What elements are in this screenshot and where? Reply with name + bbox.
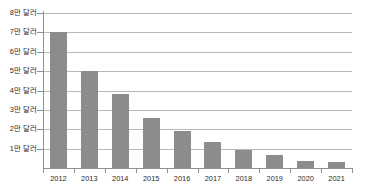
- x-axis-tick: [167, 168, 168, 173]
- x-axis-tick: [198, 168, 199, 173]
- bar: [112, 94, 129, 168]
- bar-chart: 8만 달러7만 달러6만 달러5만 달러4만 달러3만 달러2만 달러1만 달러…: [0, 0, 368, 189]
- x-axis-tick-label: 2012: [41, 174, 75, 183]
- x-axis-tick: [136, 168, 137, 173]
- y-axis-tick-label: 2만 달러: [1, 125, 37, 133]
- x-axis-tick-label: 2015: [134, 174, 168, 183]
- x-axis-tick-origin: [43, 168, 44, 173]
- x-axis-tick-label: 2014: [103, 174, 137, 183]
- y-axis-tick-label: 8만 달러: [1, 9, 37, 17]
- x-axis-tick: [105, 168, 106, 173]
- x-axis-tick-label: 2019: [258, 174, 292, 183]
- y-axis-tick-label: 4만 달러: [1, 87, 37, 95]
- bar: [204, 142, 221, 168]
- x-axis-tick: [352, 168, 353, 173]
- bar: [266, 155, 283, 168]
- x-axis-tick: [74, 168, 75, 173]
- y-axis-labels: 8만 달러7만 달러6만 달러5만 달러4만 달러3만 달러2만 달러1만 달러: [0, 0, 37, 189]
- x-axis-tick-label: 2017: [196, 174, 230, 183]
- y-axis-tick-label: 7만 달러: [1, 28, 37, 36]
- bar: [235, 150, 252, 168]
- x-axis-tick: [228, 168, 229, 173]
- bar: [143, 118, 160, 168]
- bar: [328, 162, 345, 168]
- y-axis-tick-label: 5만 달러: [1, 67, 37, 75]
- y-axis-tick-label: 6만 달러: [1, 48, 37, 56]
- x-axis-tick: [290, 168, 291, 173]
- x-axis-tick: [259, 168, 260, 173]
- x-axis-tick-label: 2016: [165, 174, 199, 183]
- bar: [50, 32, 67, 168]
- x-axis-tick-label: 2013: [72, 174, 106, 183]
- bar: [297, 161, 314, 168]
- x-axis-tick-label: 2021: [320, 174, 354, 183]
- y-axis-tick-label: 3만 달러: [1, 106, 37, 114]
- bar-series: [43, 13, 352, 168]
- x-axis-tick-label: 2020: [289, 174, 323, 183]
- x-axis-tick-label: 2018: [227, 174, 261, 183]
- bar: [174, 131, 191, 168]
- y-axis-tick-label: 1만 달러: [1, 145, 37, 153]
- bar: [81, 71, 98, 168]
- x-axis-tick: [321, 168, 322, 173]
